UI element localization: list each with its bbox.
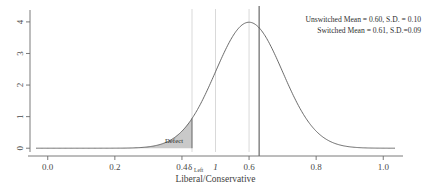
chart-canvas: 0.00.20.40.60.81.0 01234 Defect Unswitch… <box>0 0 425 187</box>
threshold-one-marker: 1 <box>213 162 218 172</box>
x-tick-label-2: 0.4 <box>176 162 188 172</box>
grid-lines <box>192 9 249 152</box>
x-tick-label-3: 0.6 <box>243 162 255 172</box>
x-axis-title: Liberal/Conservative <box>175 174 255 184</box>
x-tick-label-0: 0.0 <box>42 162 54 172</box>
y-tick-label-1: 1 <box>15 114 25 119</box>
annotation-switched: Switched Mean = 0.61, S.D.=0.09 <box>317 26 421 35</box>
x-tick-label-5: 1.0 <box>378 162 390 172</box>
y-tick-label-0: 0 <box>15 145 25 150</box>
delta-left-marker: δ <box>188 162 192 172</box>
y-tick-label-2: 2 <box>15 83 25 88</box>
x-tick-label-1: 0.2 <box>109 162 120 172</box>
normal-distribution-chart: 0.00.20.40.60.81.0 01234 Defect Unswitch… <box>0 0 425 187</box>
y-tick-label-4: 4 <box>15 19 25 24</box>
y-tick-label-3: 3 <box>15 51 25 56</box>
delta-left-subscript: Left <box>194 167 204 173</box>
y-axis-ticks: 01234 <box>15 19 30 150</box>
x-tick-label-4: 0.8 <box>311 162 323 172</box>
annotation-unswitched: Unswitched Mean = 0.60, S.D. = 0.10 <box>305 15 421 24</box>
defect-label: Defect <box>165 137 183 144</box>
